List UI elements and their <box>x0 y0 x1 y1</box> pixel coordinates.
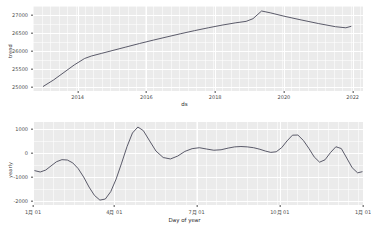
x-tick-mark <box>77 91 78 93</box>
data-series-yearly <box>35 127 362 200</box>
x-tick-mark <box>215 91 216 93</box>
y-tick-label: 26000 <box>0 48 28 54</box>
x-tick-label: 2018 <box>209 94 222 100</box>
x-tick-mark <box>196 205 197 207</box>
x-tick-mark <box>352 91 353 93</box>
x-tick-mark <box>279 205 280 207</box>
x-tick-mark <box>284 91 285 93</box>
yearly-plot-area <box>33 122 363 205</box>
y-tick-mark <box>31 33 33 34</box>
y-tick-label: -1000 <box>0 174 28 180</box>
x-tick-mark <box>363 205 364 207</box>
y-tick-label: 26500 <box>0 30 28 36</box>
y-tick-mark <box>31 153 33 154</box>
y-tick-label: 27000 <box>0 12 28 18</box>
yearly-x-axis-title: Day of year <box>0 217 369 223</box>
x-tick-mark <box>114 205 115 207</box>
y-tick-label: 0 <box>0 150 28 156</box>
x-tick-label: 10月 01 <box>270 208 289 215</box>
x-tick-mark <box>33 205 34 207</box>
series-line-yearly <box>33 122 363 205</box>
x-tick-label: 1月 01 <box>25 208 41 215</box>
y-tick-mark <box>31 51 33 52</box>
trend-panel: trend ds 2500025500260002650027000201420… <box>0 0 369 118</box>
x-tick-label: 4月 01 <box>106 208 122 215</box>
y-tick-label: 1000 <box>0 126 28 132</box>
y-tick-mark <box>31 69 33 70</box>
data-series-trend <box>43 11 351 86</box>
y-tick-mark <box>31 129 33 130</box>
y-tick-label: 25000 <box>0 84 28 90</box>
x-tick-label: 1月 01 <box>355 208 371 215</box>
trend-plot-area <box>33 6 363 91</box>
x-tick-label: 7月 01 <box>189 208 205 215</box>
x-tick-label: 2016 <box>140 94 153 100</box>
x-tick-label: 2020 <box>278 94 291 100</box>
x-tick-label: 2022 <box>346 94 359 100</box>
y-tick-mark <box>31 200 33 201</box>
y-tick-mark <box>31 176 33 177</box>
y-tick-label: -2000 <box>0 198 28 204</box>
x-tick-label: 2014 <box>71 94 84 100</box>
x-tick-mark <box>146 91 147 93</box>
y-tick-label: 25500 <box>0 66 28 72</box>
y-tick-mark <box>31 86 33 87</box>
series-line-trend <box>33 6 363 91</box>
y-tick-mark <box>31 15 33 16</box>
trend-x-axis-title: ds <box>0 101 369 107</box>
yearly-panel: yearly Day of year 10000-1000-20001月 014… <box>0 118 369 236</box>
